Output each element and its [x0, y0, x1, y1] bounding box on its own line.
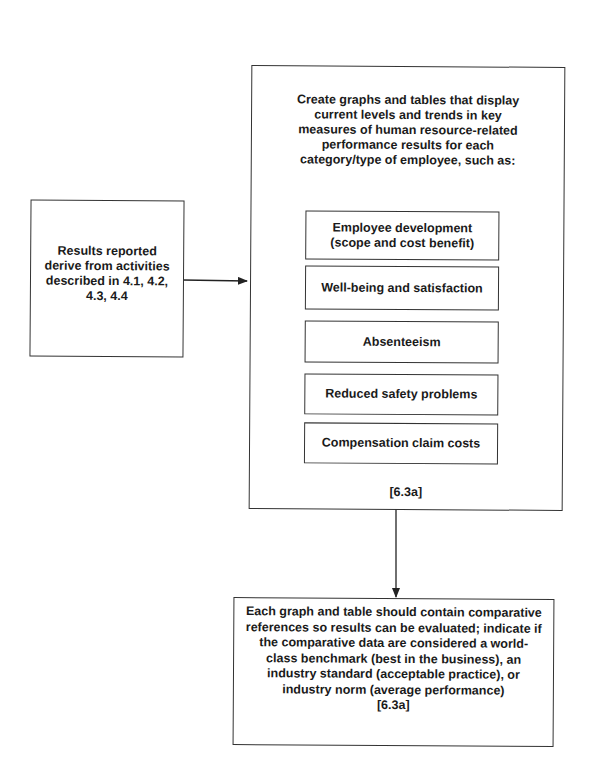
hr-results-graphs-box: Create graphs and tables that display cu…: [249, 65, 566, 511]
result-line: industry standard (acceptable practice),…: [240, 666, 547, 683]
source-line: Results reported: [37, 243, 177, 259]
result-box-text: Each graph and table should contain comp…: [240, 604, 548, 714]
title-line: current levels and trends in key: [272, 107, 544, 124]
arrow-source-to-main: [183, 280, 247, 281]
measure-label: Absenteeism: [363, 334, 441, 349]
measure-absenteeism: Absenteeism: [305, 320, 499, 363]
source-box-text: Results reported derive from activities …: [37, 243, 177, 304]
measure-label: (scope and cost benefit): [330, 235, 474, 251]
result-line: industry norm (average performance): [240, 682, 547, 699]
measure-label: Well-being and satisfaction: [321, 280, 483, 296]
measure-label: Employee development: [330, 220, 474, 236]
measure-label: Reduced safety problems: [325, 387, 477, 403]
comparative-references-box: Each graph and table should contain comp…: [233, 597, 555, 747]
measure-safety-problems: Reduced safety problems: [304, 373, 498, 415]
main-box-reference: [6.3a]: [250, 484, 562, 501]
title-line: measures of human resource-related: [272, 122, 544, 139]
result-reference: [6.3a]: [240, 697, 547, 714]
title-line: performance results for each: [272, 137, 544, 154]
result-line: the comparative data are considered a wo…: [240, 635, 547, 652]
measure-label: Compensation claim costs: [322, 435, 480, 451]
source-line: 4.3, 4.4: [37, 288, 177, 304]
result-line: Each graph and table should contain comp…: [240, 604, 547, 621]
measure-compensation-claims: Compensation claim costs: [304, 422, 498, 464]
source-line: derive from activities: [37, 258, 177, 274]
source-line: described in 4.1, 4.2,: [37, 273, 177, 289]
result-line: class benchmark (best in the business), …: [240, 651, 547, 668]
result-line: references so results can be evaluated; …: [240, 620, 547, 637]
measure-employee-development: Employee development (scope and cost ben…: [305, 210, 499, 260]
main-box-title: Create graphs and tables that display cu…: [272, 92, 544, 169]
measure-well-being: Well-being and satisfaction: [305, 265, 499, 310]
title-line: category/type of employee, such as:: [272, 152, 544, 169]
title-line: Create graphs and tables that display: [272, 92, 544, 109]
source-activities-box: Results reported derive from activities …: [29, 199, 184, 357]
